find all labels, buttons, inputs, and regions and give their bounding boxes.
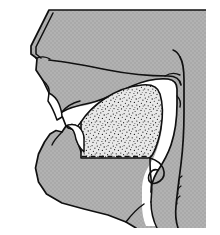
vocal-tract-figure: Mid-sagittal section of the vocal tract … [0,0,220,235]
right-margin [206,0,220,235]
top-margin [0,0,220,9]
bottom-margin [0,228,220,235]
vocal-tract-diagram [0,0,220,235]
